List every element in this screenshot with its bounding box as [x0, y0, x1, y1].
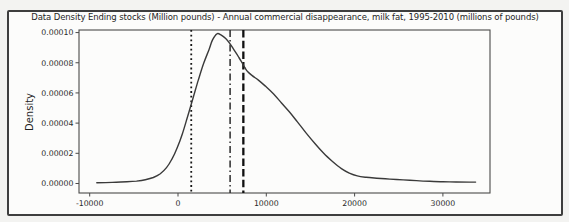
x-tick-label: 0 — [176, 199, 181, 208]
y-tick-label: 0.00008 — [41, 59, 73, 68]
density-curve — [97, 34, 476, 183]
y-axis-label: Density — [24, 93, 35, 131]
x-tick-label: 20000 — [342, 199, 367, 208]
chart-title: Data Density Ending stocks (Million poun… — [10, 12, 560, 22]
density-plot: -1000001000020000300000.000000.000020.00… — [0, 0, 569, 222]
screenshot-root: -1000001000020000300000.000000.000020.00… — [0, 0, 569, 222]
y-tick-label: 0.00010 — [41, 28, 73, 37]
x-tick-label: -10000 — [76, 199, 104, 208]
y-tick-label: 0.00002 — [41, 149, 73, 158]
y-tick-label: 0.00006 — [41, 89, 73, 98]
x-tick-label: 30000 — [430, 199, 455, 208]
x-tick-label: 10000 — [254, 199, 279, 208]
axes-box — [79, 30, 490, 193]
y-tick-label: 0.00000 — [41, 179, 73, 188]
y-tick-label: 0.00004 — [41, 119, 73, 128]
